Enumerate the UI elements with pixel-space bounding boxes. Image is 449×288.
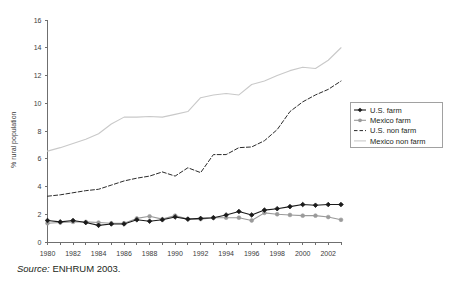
y-tick-label: 8 <box>38 128 42 135</box>
x-tick-label: 1996 <box>244 250 260 257</box>
data-point <box>275 212 279 216</box>
data-point <box>237 209 242 214</box>
y-tick-label: 6 <box>38 155 42 162</box>
data-point <box>314 214 318 218</box>
plot-area: 0246810121416 19801982198419861988199019… <box>34 17 344 257</box>
legend-label: Mexico non farm <box>370 137 425 146</box>
series-u-s-non-farm <box>48 81 342 196</box>
figure-container: 0246810121416 19801982198419861988199019… <box>0 0 449 288</box>
data-point <box>313 203 318 208</box>
data-point <box>147 219 152 224</box>
data-point <box>326 215 330 219</box>
source-value: ENHRUM 2003. <box>52 263 120 274</box>
y-tick-label: 10 <box>34 100 42 107</box>
y-axis-tick-labels: 0246810121416 <box>34 17 42 246</box>
y-tick-label: 16 <box>34 17 42 24</box>
legend-label: U.S. farm <box>370 106 402 115</box>
x-tick-label: 1990 <box>167 250 183 257</box>
line-chart: 0246810121416 19801982198419861988199019… <box>0 0 449 288</box>
x-tick-label: 1984 <box>91 250 107 257</box>
chart-legend: U.S. farmMexico farmU.S. non farmMexico … <box>350 102 442 147</box>
data-point <box>249 213 254 218</box>
data-point <box>326 202 331 207</box>
data-point <box>275 206 280 211</box>
x-tick-label: 2002 <box>320 250 336 257</box>
x-tick-label: 1982 <box>65 250 81 257</box>
x-axis-tick-labels: 1980198219841986198819901992199419961998… <box>40 250 336 257</box>
y-tick-label: 4 <box>38 183 42 190</box>
x-tick-label: 1988 <box>142 250 158 257</box>
y-tick-label: 12 <box>34 72 42 79</box>
legend-label: Mexico farm <box>370 116 411 125</box>
data-point <box>288 204 293 209</box>
series-mexico-non-farm <box>48 48 342 151</box>
legend-label: U.S. non farm <box>370 126 416 135</box>
source-label: Source: <box>17 263 50 274</box>
data-point <box>339 218 343 222</box>
data-point <box>288 213 292 217</box>
data-point <box>237 216 241 220</box>
data-series-layer <box>45 48 343 228</box>
x-tick-label: 1980 <box>40 250 56 257</box>
y-tick-label: 14 <box>34 44 42 51</box>
y-axis-title: % rural population <box>10 111 18 168</box>
source-caption: Source: ENHRUM 2003. <box>17 263 121 274</box>
y-axis-title-text: % rural population <box>10 111 18 168</box>
y-tick-label: 0 <box>38 239 42 246</box>
y-tick-label: 2 <box>38 211 42 218</box>
x-tick-label: 1994 <box>218 250 234 257</box>
legend-marker <box>358 118 362 122</box>
data-point <box>186 217 191 222</box>
x-tick-label: 1998 <box>269 250 285 257</box>
data-point <box>301 214 305 218</box>
x-tick-label: 1986 <box>116 250 132 257</box>
x-tick-label: 1992 <box>193 250 209 257</box>
data-point <box>148 214 152 218</box>
data-point <box>300 202 305 207</box>
data-point <box>250 219 254 223</box>
x-tick-label: 2000 <box>295 250 311 257</box>
data-point <box>211 215 216 220</box>
data-point <box>339 202 344 207</box>
